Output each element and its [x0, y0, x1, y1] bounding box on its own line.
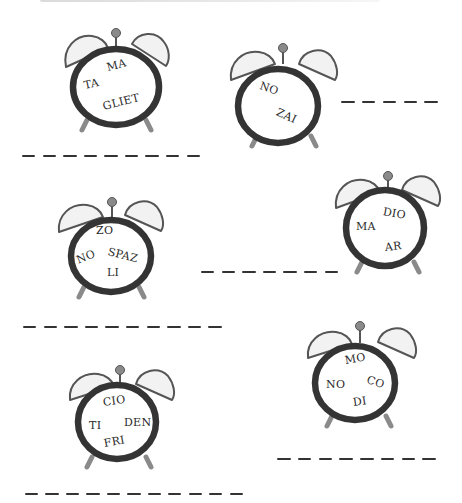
alarm-clock-2: NO ZAI	[225, 42, 340, 157]
alarm-clock-icon	[300, 318, 415, 433]
dash	[104, 155, 117, 157]
dash	[263, 271, 276, 273]
dash	[45, 493, 58, 495]
dash	[277, 458, 291, 460]
syllable: DI	[352, 394, 367, 409]
dash	[22, 155, 35, 157]
dash	[64, 326, 77, 328]
dash	[84, 155, 97, 157]
dash	[383, 101, 397, 103]
answer-blank-1[interactable]	[22, 155, 200, 157]
dash	[148, 493, 161, 495]
dash	[147, 326, 160, 328]
answer-blank-4[interactable]	[23, 326, 222, 328]
dash	[424, 101, 438, 103]
dash	[381, 458, 395, 460]
dash	[167, 326, 180, 328]
dash	[127, 493, 140, 495]
dash	[298, 458, 312, 460]
dash	[339, 458, 353, 460]
dash	[230, 493, 243, 495]
dash	[23, 326, 36, 328]
dash	[422, 458, 436, 460]
dash	[187, 155, 200, 157]
alarm-clock-6: CIO TI DEN FRI	[60, 362, 175, 477]
dash	[201, 271, 214, 273]
dash	[126, 326, 139, 328]
dash	[209, 493, 222, 495]
dash	[25, 493, 38, 495]
alarm-clock-5: MO NO CO DI	[300, 318, 415, 433]
dash	[222, 271, 235, 273]
dash	[189, 493, 202, 495]
dash	[362, 101, 376, 103]
dash	[325, 271, 338, 273]
answer-blank-5[interactable]	[277, 458, 436, 460]
dash	[86, 493, 99, 495]
dash	[283, 271, 296, 273]
answer-blank-6[interactable]	[25, 493, 243, 495]
answer-blank-2[interactable]	[341, 101, 438, 103]
dash	[63, 155, 76, 157]
dash	[402, 458, 416, 460]
dash	[319, 458, 333, 460]
syllable: LI	[107, 266, 119, 279]
dash	[242, 271, 255, 273]
alarm-clock-1: MA TA GLIET	[60, 22, 175, 137]
alarm-clock-3: ZO NO SPAZ LI	[55, 195, 170, 310]
dash	[85, 326, 98, 328]
dash	[404, 101, 418, 103]
syllable: MA	[356, 220, 376, 233]
syllable: AR	[384, 239, 402, 254]
syllable: DEN	[124, 416, 151, 429]
dash	[208, 326, 221, 328]
dash	[107, 493, 120, 495]
alarm-clock-icon	[330, 168, 445, 283]
syllable: NO	[326, 378, 345, 391]
dash	[44, 326, 57, 328]
alarm-clock-icon	[60, 22, 175, 137]
dash	[66, 493, 79, 495]
dash	[360, 458, 374, 460]
answer-blank-3[interactable]	[201, 271, 338, 273]
dash	[145, 155, 158, 157]
dash	[168, 493, 181, 495]
syllable: ZO	[96, 224, 113, 237]
dash	[105, 326, 118, 328]
dash	[166, 155, 179, 157]
dash	[125, 155, 138, 157]
alarm-clock-icon	[225, 42, 340, 157]
syllable: TI	[89, 419, 101, 432]
dash	[188, 326, 201, 328]
cropped-header-text	[40, 0, 380, 2]
dash	[43, 155, 56, 157]
dash	[341, 101, 355, 103]
alarm-clock-icon	[60, 362, 175, 477]
alarm-clock-4: DIO MA AR	[330, 168, 445, 283]
dash	[304, 271, 317, 273]
